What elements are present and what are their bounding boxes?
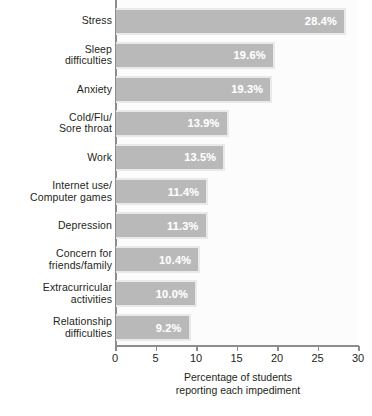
category-label-line: Sore throat [0, 123, 112, 135]
category-label-line: friends/family [0, 260, 112, 272]
bar-value-label: 11.3% [167, 220, 206, 232]
x-axis-title: Percentage of students reporting each im… [110, 371, 366, 397]
category-label-line: Internet use/ [0, 180, 112, 192]
x-axis-tick-label: 20 [262, 352, 292, 364]
x-axis-title-line1: Percentage of students [110, 371, 366, 384]
bar: 11.3% [116, 212, 208, 239]
bar: 9.2% [116, 314, 191, 341]
category-label-line: Depression [0, 220, 112, 232]
category-label: Internet use/Computer games [0, 180, 112, 203]
category-label: Work [0, 152, 112, 164]
category-label: Sleepdifficulties [0, 44, 112, 67]
category-label-line: activities [0, 294, 112, 306]
x-axis-tick [196, 346, 198, 351]
category-label-line: Work [0, 152, 112, 164]
x-axis-tick-label: 10 [181, 352, 211, 364]
bar-value-label: 13.9% [187, 117, 226, 129]
x-axis-tick [237, 346, 239, 351]
category-label: Anxiety [0, 84, 112, 96]
category-label: Stress [0, 15, 112, 27]
bar: 11.4% [116, 178, 208, 205]
bar-rows: Stress28.4%Sleepdifficulties19.6%Anxiety… [0, 0, 372, 346]
x-axis-tick [115, 346, 117, 351]
x-axis-tick-label: 0 [100, 352, 130, 364]
bar-value-label: 19.6% [234, 49, 273, 61]
bar: 28.4% [116, 8, 346, 35]
category-label-line: Computer games [0, 192, 112, 204]
category-label-line: Stress [0, 15, 112, 27]
x-axis-tick-label: 5 [141, 352, 171, 364]
bar: 13.5% [116, 144, 225, 171]
x-axis-tick-label: 25 [303, 352, 333, 364]
x-axis-tick [277, 346, 279, 351]
category-label-line: Anxiety [0, 84, 112, 96]
x-axis-tick-label: 15 [222, 352, 252, 364]
x-axis-tick [318, 346, 320, 351]
category-label: Cold/Flu/Sore throat [0, 112, 112, 135]
bar: 19.6% [116, 42, 275, 69]
bar-chart: Stress28.4%Sleepdifficulties19.6%Anxiety… [0, 0, 372, 416]
bar: 10.0% [116, 280, 197, 307]
x-axis-tick [156, 346, 158, 351]
x-axis-title-line2: reporting each impediment [110, 384, 366, 397]
category-label: Concern forfriends/family [0, 248, 112, 271]
bar-value-label: 11.4% [168, 186, 207, 198]
bar: 13.9% [116, 110, 229, 137]
bar: 19.3% [116, 76, 272, 103]
bar-value-label: 28.4% [305, 15, 344, 27]
category-label-line: difficulties [0, 328, 112, 340]
category-label: Relationshipdifficulties [0, 316, 112, 339]
x-axis-tick-label: 30 [343, 352, 372, 364]
x-axis-tick [358, 346, 360, 351]
bar-value-label: 9.2% [156, 322, 189, 334]
bar: 10.4% [116, 246, 200, 273]
category-label: Extracurricularactivities [0, 282, 112, 305]
bar-value-label: 19.3% [231, 83, 270, 95]
bar-value-label: 13.5% [184, 151, 223, 163]
bar-value-label: 10.4% [159, 254, 198, 266]
bar-value-label: 10.0% [156, 288, 195, 300]
category-label: Depression [0, 220, 112, 232]
category-label-line: difficulties [0, 55, 112, 67]
